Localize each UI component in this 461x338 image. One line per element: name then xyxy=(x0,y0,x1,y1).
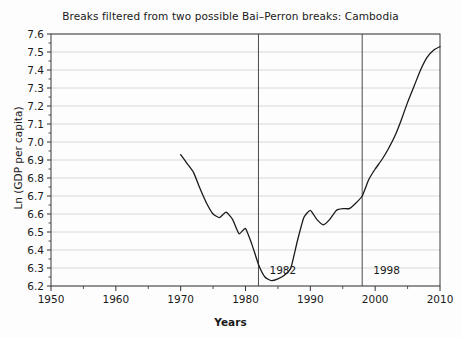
y-tick-label: 7.0 xyxy=(27,136,44,148)
data-series xyxy=(181,47,440,281)
y-tick-label: 7.1 xyxy=(27,118,44,130)
x-axis-ticks: 1950196019701980199020002010 xyxy=(38,286,454,305)
y-tick-label: 7.5 xyxy=(27,46,44,58)
x-tick-label: 1970 xyxy=(167,293,194,305)
plot-area: 6.26.36.46.56.66.76.86.97.07.17.27.37.47… xyxy=(0,0,461,338)
x-tick-label: 1950 xyxy=(38,293,65,305)
y-tick-label: 7.6 xyxy=(27,28,44,40)
x-tick-label: 1990 xyxy=(297,293,324,305)
y-tick-label: 6.9 xyxy=(27,154,44,166)
y-axis-ticks: 6.26.36.46.56.66.76.86.97.07.17.27.37.47… xyxy=(27,28,51,292)
y-tick-label: 6.4 xyxy=(27,244,44,256)
break-label-1982: 1982 xyxy=(269,264,296,276)
y-tick-label: 7.4 xyxy=(27,64,44,76)
series-line-0 xyxy=(181,47,440,281)
x-tick-label: 1960 xyxy=(102,293,129,305)
break-label-1998: 1998 xyxy=(373,264,400,276)
chart-figure: Breaks filtered from two possible Bai–Pe… xyxy=(0,0,461,338)
x-tick-label: 2000 xyxy=(362,293,389,305)
y-tick-label: 7.2 xyxy=(27,100,44,112)
x-tick-label: 2010 xyxy=(427,293,454,305)
x-tick-label: 1980 xyxy=(232,293,259,305)
y-tick-label: 6.7 xyxy=(27,190,44,202)
y-tick-label: 6.5 xyxy=(27,226,44,238)
y-tick-label: 6.2 xyxy=(27,280,44,292)
y-tick-label: 6.3 xyxy=(27,262,44,274)
y-tick-label: 7.3 xyxy=(27,82,44,94)
y-tick-label: 6.6 xyxy=(27,208,44,220)
y-tick-label: 6.8 xyxy=(27,172,44,184)
